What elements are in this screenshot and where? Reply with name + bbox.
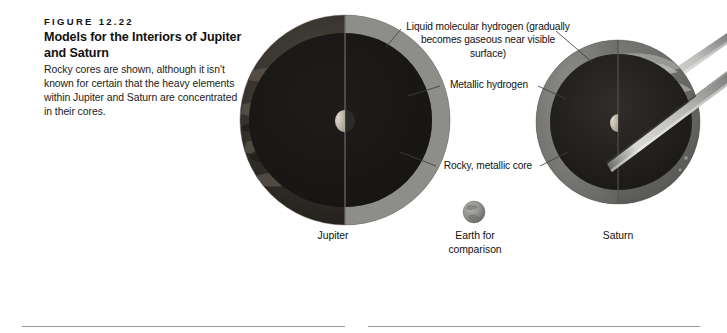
label-saturn: Saturn	[573, 229, 663, 243]
label-earth-comparison: Earth for comparison	[430, 229, 520, 256]
column-rule-right	[368, 326, 700, 327]
annotation-metallic-hydrogen: Metallic hydrogen	[443, 78, 535, 91]
column-rule-left	[22, 326, 345, 327]
earth-comparison-sphere	[463, 201, 485, 223]
annotation-rocky-core: Rocky, metallic core	[438, 159, 538, 172]
figure-page: FIGURE 12.22 Models for the Interiors of…	[0, 0, 727, 333]
annotation-liquid-hydrogen: Liquid molecular hydrogen (gradually bec…	[405, 20, 571, 60]
label-jupiter: Jupiter	[288, 229, 378, 243]
figure-artwork	[0, 0, 727, 290]
